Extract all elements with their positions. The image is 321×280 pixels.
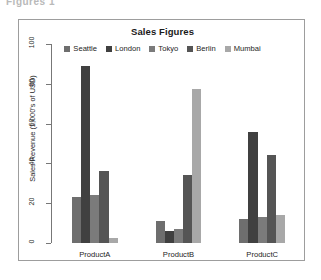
bar [258,217,267,243]
bar [267,155,276,243]
bars-layer [19,20,306,260]
bar [248,132,257,243]
x-axis-group-label: ProductA [53,250,137,259]
bar [90,195,99,243]
chart-screenshot: Figures 1 Sales Figures SeattleLondonTok… [0,0,321,280]
plot-area: Sales Revenue (1,000's of USD) 020406080… [19,20,306,260]
bar [183,175,192,243]
bar [174,229,183,243]
bar [109,238,118,243]
bar [165,231,174,243]
bar [99,171,108,243]
bar [81,66,90,243]
bar [276,215,285,243]
clipped-caption-text: Figures 1 [6,0,126,8]
figure-frame: Sales Figures SeattleLondonTokyoBerlinMu… [18,19,305,261]
bar [192,89,201,243]
x-axis-group-label: ProductB [137,250,221,259]
bar [72,197,81,243]
bar [156,221,165,243]
x-axis-group-label: ProductC [220,250,304,259]
bar [239,219,248,243]
